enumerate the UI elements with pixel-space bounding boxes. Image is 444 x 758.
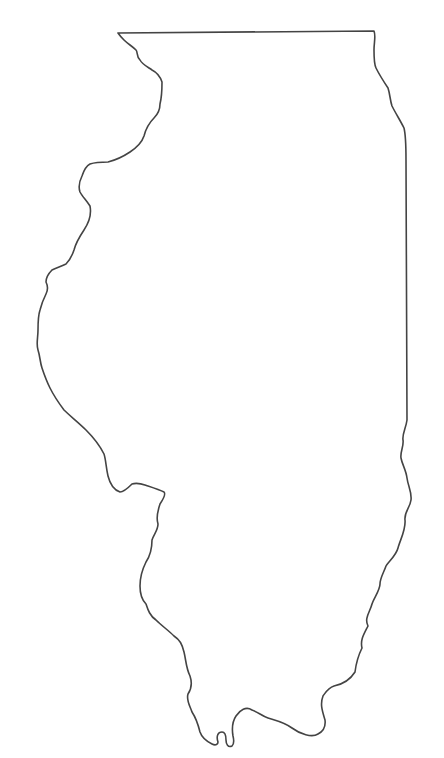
- illinois-outline-map: [0, 0, 444, 758]
- state-border-illinois: [37, 31, 411, 747]
- map-canvas: [0, 0, 444, 758]
